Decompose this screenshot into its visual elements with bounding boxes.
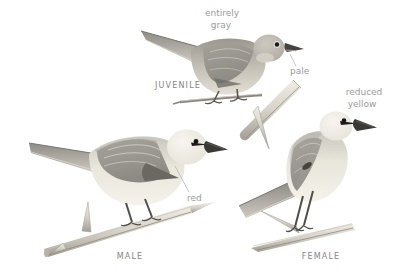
female-bill (353, 119, 377, 131)
thorn (82, 202, 91, 232)
male-head (167, 130, 207, 165)
juvenile-tail (141, 31, 199, 63)
juvenile-figure (141, 31, 304, 149)
male-bird (29, 130, 228, 226)
female-branch (251, 211, 355, 252)
label-female: FEMALE (302, 252, 341, 261)
annotation-entirely: entirely (205, 7, 239, 19)
annotation-yellow: yellow (348, 98, 377, 110)
juvenile-bill (284, 43, 304, 52)
female-eye (342, 118, 347, 123)
male-tail (29, 143, 97, 172)
female-bird (239, 112, 377, 232)
male-bill (204, 141, 228, 153)
label-male: MALE (117, 252, 144, 261)
bird-illustrations (0, 0, 396, 277)
female-figure (239, 112, 377, 253)
juvenile-eye (275, 42, 279, 46)
annotation-red: red (187, 192, 202, 204)
annotation-pale: pale (290, 65, 309, 77)
juvenile-throat (256, 53, 274, 63)
label-juvenile: JUVENILE (155, 81, 201, 90)
annotation-reduced: reduced (346, 86, 383, 98)
male-eye (194, 139, 199, 144)
female-tail (239, 182, 296, 218)
annotation-gray: gray (211, 19, 231, 31)
juvenile-bird (141, 31, 304, 104)
male-branch (44, 202, 215, 257)
female-head (320, 112, 353, 141)
juvenile-branch (240, 80, 301, 149)
field-guide-plate: entirely gray pale reduced yellow red JU… (0, 0, 396, 277)
